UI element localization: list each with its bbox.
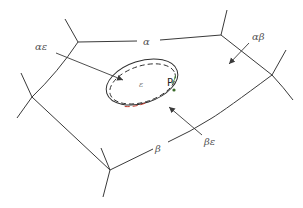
edge-left-to-bottom [32, 97, 110, 170]
edge-topright-spur [221, 10, 227, 35]
label-epsilon: ε [139, 80, 143, 89]
arrow-beta-epsilon [169, 107, 202, 135]
edge-bottom-spur-down [103, 170, 110, 197]
edge-left-spur-down [17, 97, 32, 118]
edge-alpha-left [78, 41, 137, 42]
arrow-alpha-epsilon [56, 53, 123, 80]
edge-right-spur-up [272, 50, 286, 75]
edge-beta-right [168, 75, 272, 142]
label-beta: β [154, 143, 161, 154]
diagram-canvas: αε α αβ ε P β βε [0, 0, 303, 208]
diagram-svg: αε α αβ ε P β βε [0, 0, 303, 208]
label-beta-epsilon: βε [203, 136, 215, 147]
point-p-marker [172, 88, 175, 91]
edge-right-spur-down [272, 75, 293, 100]
label-alpha-epsilon: αε [35, 41, 47, 52]
label-alpha-beta: αβ [252, 31, 265, 42]
label-alpha: α [143, 36, 150, 47]
arrow-alpha-beta [229, 43, 249, 64]
edge-bottom-spur-up [101, 148, 110, 170]
edge-left-spur-up [21, 73, 32, 97]
arrows [56, 43, 249, 135]
label-point-p: P [167, 77, 173, 88]
edge-topleft-spur [65, 19, 78, 42]
edge-alpha-right [160, 35, 221, 40]
labels: αε α αβ ε P β βε [35, 31, 265, 154]
edge-beta-left [110, 149, 153, 170]
